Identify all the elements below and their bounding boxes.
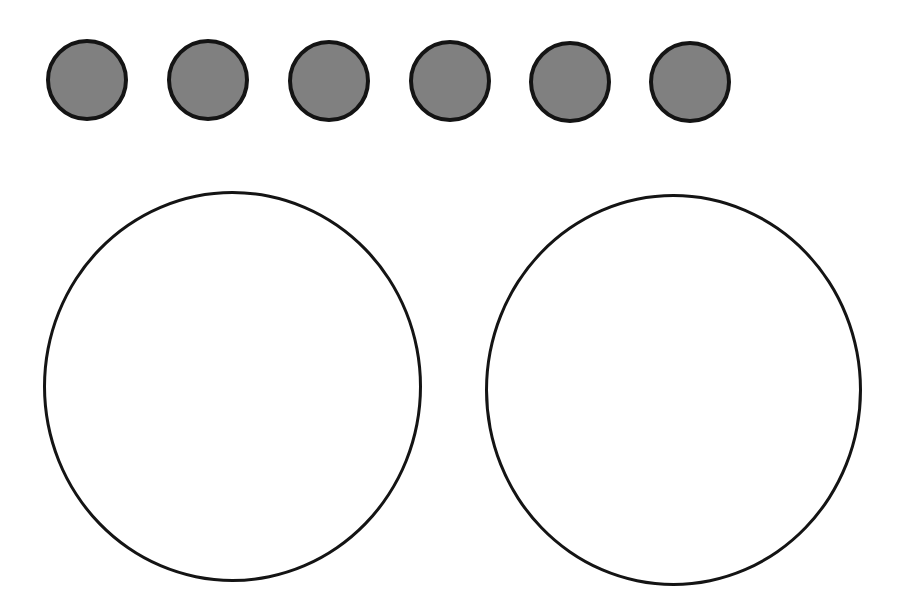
token-circle-3	[288, 40, 370, 122]
token-circle-1	[46, 39, 128, 121]
token-circle-2	[167, 39, 249, 121]
group-circle-right	[485, 194, 862, 586]
group-circle-left	[43, 191, 422, 582]
token-circle-6	[649, 41, 731, 123]
token-circle-5	[529, 41, 611, 123]
token-circle-4	[409, 40, 491, 122]
diagram-canvas	[0, 0, 902, 603]
